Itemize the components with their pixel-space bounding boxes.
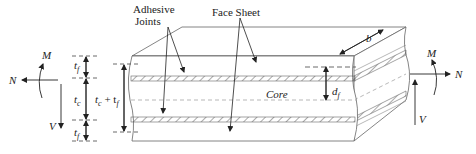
left-normal-label: N <box>9 75 16 86</box>
left-moment-label: M <box>42 50 51 61</box>
top-face-thickness-label: tf <box>74 60 79 74</box>
face-distance-label: df <box>332 86 340 100</box>
left-moment-arrow <box>39 64 43 98</box>
core-label: Core <box>266 89 288 100</box>
right-shear-label: V <box>419 114 426 125</box>
face-sheet-label: Face Sheet <box>212 7 260 18</box>
adhesive-joints-label-line2: Joints <box>135 16 161 27</box>
right-moment-arrow <box>432 60 437 95</box>
beam-front-face <box>128 56 357 141</box>
adhesive-joints-label-line1: Adhesive <box>133 4 175 15</box>
total-thickness-label: tc + tf <box>95 94 119 108</box>
core-thickness-label: tc <box>74 94 81 108</box>
right-loads <box>410 60 450 125</box>
left-loads <box>22 64 61 128</box>
bottom-adhesive-joint <box>131 117 355 122</box>
width-label-b: b <box>366 33 372 44</box>
right-moment-label: M <box>427 48 436 59</box>
bottom-face-thickness-label: tf <box>74 127 79 141</box>
right-normal-label: N <box>455 69 462 80</box>
sandwich-beam-diagram <box>0 0 476 154</box>
left-shear-label: V <box>49 121 56 132</box>
